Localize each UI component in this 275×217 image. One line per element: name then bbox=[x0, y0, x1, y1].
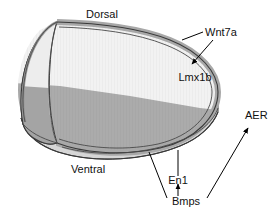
wnt7a-leader-line bbox=[182, 32, 203, 40]
label-ventral: Ventral bbox=[71, 163, 105, 175]
label-bmps: Bmps bbox=[172, 195, 201, 207]
label-lmx1b: Lmx1b bbox=[178, 71, 211, 83]
bmps-leader-line bbox=[149, 152, 167, 198]
label-wnt7a: Wnt7a bbox=[205, 26, 238, 38]
limb-bud-diagram: Dorsal Ventral Wnt7a Lmx1b AER En1 Bmps bbox=[0, 0, 275, 217]
diagram-canvas: Dorsal Ventral Wnt7a Lmx1b AER En1 Bmps bbox=[0, 0, 275, 217]
label-en1: En1 bbox=[168, 174, 188, 186]
bmps-to-aer-arrow bbox=[207, 128, 248, 198]
label-dorsal: Dorsal bbox=[86, 8, 118, 20]
label-aer: AER bbox=[245, 109, 268, 121]
